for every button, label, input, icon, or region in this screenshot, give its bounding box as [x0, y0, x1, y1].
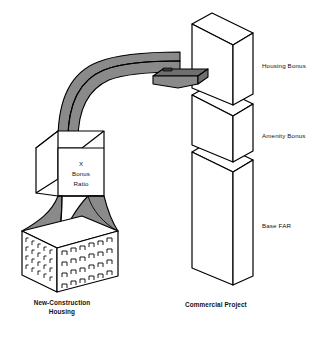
zoning-bonus-diagram: · ·	[0, 0, 323, 338]
top-title-fragment-right: ·	[148, 0, 150, 5]
tier-label-amenity-bonus: Amenity Bonus	[262, 132, 306, 139]
new-construction-housing-building: New-Construction Housing	[22, 216, 118, 316]
bonus-ratio-cube: X Bonus Ratio	[36, 131, 104, 196]
base-far-front-face	[233, 160, 253, 285]
tier-box-housing-bonus	[192, 13, 253, 105]
cube-bottom-edge	[36, 193, 58, 196]
arrowhead-notch	[163, 68, 172, 71]
cube-label-line1: X	[79, 160, 83, 167]
tier-box-base-far	[192, 140, 253, 285]
caption-housing-line2: Housing	[49, 308, 75, 316]
diagram-canvas: · ·	[0, 0, 323, 338]
bonus-transfer-arrow	[58, 52, 208, 140]
arrowhead-front-face	[153, 76, 198, 88]
top-title-fragment-left: ·	[28, 0, 30, 5]
housing-bonus-front-face	[233, 33, 253, 105]
cube-left-face	[36, 131, 58, 193]
caption-housing-line1: New-Construction	[34, 299, 91, 306]
tier-label-housing-bonus: Housing Bonus	[262, 62, 306, 69]
base-far-left-face	[192, 152, 233, 285]
cube-label-line3: Ratio	[74, 180, 89, 187]
cube-label-line2: Bonus	[72, 170, 90, 177]
caption-commercial-project: Commercial Project	[185, 301, 248, 309]
commercial-project-stack: Housing Bonus Amenity Bonus Base FAR Com…	[185, 13, 306, 309]
tier-label-base-far: Base FAR	[262, 222, 291, 229]
